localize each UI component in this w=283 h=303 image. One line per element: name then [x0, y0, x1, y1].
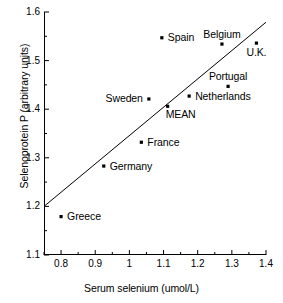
point-label-germany: Germany [110, 161, 152, 172]
y-tick-label: 1.2 [14, 201, 40, 211]
point-label-sweden: Sweden [106, 93, 143, 104]
x-tick-label: 1.1 [149, 259, 179, 269]
point-label-u-k: U.K. [196, 47, 283, 58]
x-tick-label: 1.2 [183, 259, 213, 269]
point-label-netherlands: Netherlands [195, 91, 251, 102]
x-tick-label: 0.9 [80, 259, 110, 269]
y-tick-label: 1.5 [14, 56, 40, 66]
y-tick-label: 1.3 [14, 153, 40, 163]
x-tick-label: 1.4 [251, 259, 281, 269]
x-tick-label: 1.3 [217, 259, 247, 269]
point-label-mean: MEAN [166, 109, 196, 120]
chart-figure: Selenoprotein P (arbitrary units) Serum … [0, 0, 283, 303]
x-axis-title: Serum selenium (umol/L) [0, 282, 283, 294]
point-label-france: France [147, 137, 179, 148]
point-label-portugal: Portugal [168, 71, 283, 82]
y-tick-label: 1.4 [14, 104, 40, 114]
y-tick-label: 1.6 [14, 7, 40, 17]
point-label-greece: Greece [67, 211, 101, 222]
x-tick-label: 1 [114, 259, 144, 269]
y-axis-tick-labels: 1.11.21.31.41.51.6 [12, 0, 40, 303]
point-label-belgium: Belgium [162, 29, 282, 40]
x-tick-label: 0.8 [46, 259, 76, 269]
y-tick-label: 1.1 [14, 250, 40, 260]
